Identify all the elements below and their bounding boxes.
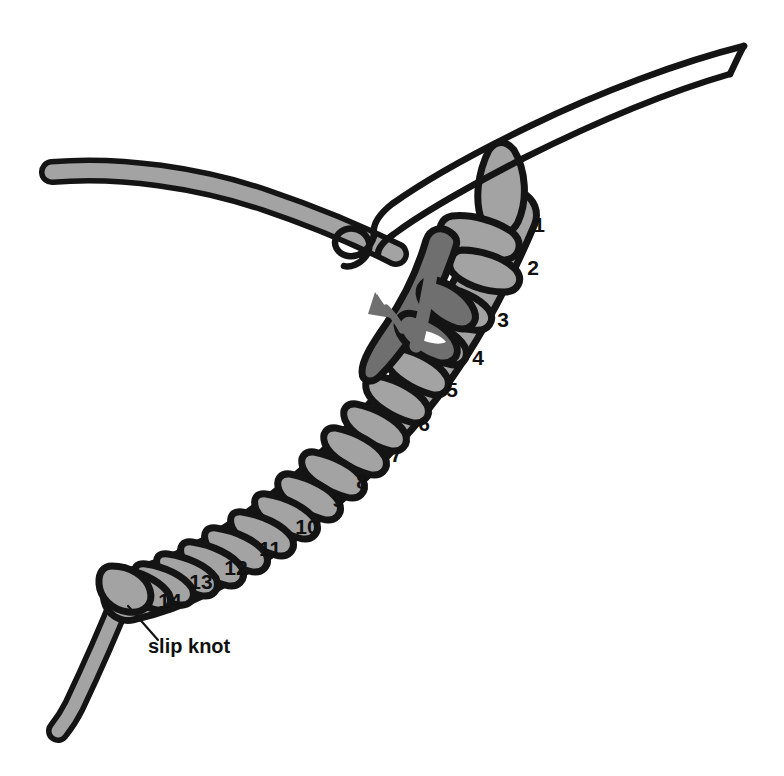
stitch-number-12: 12 (224, 556, 247, 579)
slip-knot-label: slip knot (148, 635, 231, 657)
diagram-canvas: 1 2 3 4 5 6 7 8 9 10 11 12 13 14 slip kn… (0, 0, 784, 776)
stitch-number-11: 11 (259, 537, 282, 560)
stitch-number-13: 13 (189, 570, 212, 593)
stitch-number-2: 2 (527, 256, 539, 279)
stitch-number-10: 10 (295, 515, 318, 538)
stitch-number-6: 6 (418, 412, 430, 435)
stitch-number-3: 3 (497, 308, 509, 331)
stitch-number-4: 4 (472, 346, 484, 369)
stitch-number-7: 7 (390, 443, 402, 466)
stitch-number-8: 8 (356, 470, 368, 493)
stitch-number-5: 5 (446, 378, 458, 401)
stitch-number-1: 1 (533, 213, 545, 236)
stitch-number-14: 14 (158, 589, 182, 612)
crochet-diagram-figure: 1 2 3 4 5 6 7 8 9 10 11 12 13 14 slip kn… (0, 0, 784, 776)
working-yarn-strand (52, 170, 396, 254)
stitch-number-9: 9 (332, 488, 344, 511)
